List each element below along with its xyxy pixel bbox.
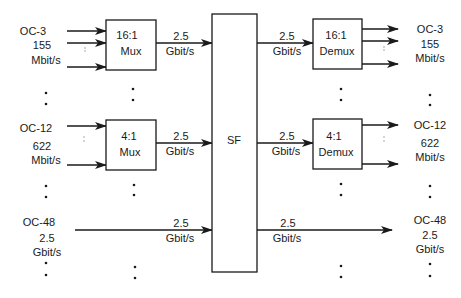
- link-unit: Gbit/s: [166, 232, 195, 244]
- label-line: Mbit/s: [31, 154, 61, 166]
- mux-16-1-box: 16:1 Mux: [106, 20, 156, 70]
- demux-16-1-box: 16:1 Demux: [313, 19, 362, 69]
- label-line: Mbit/s: [415, 52, 445, 64]
- link-sf-to-demux16: 2.5 Gbit/s: [257, 30, 313, 57]
- left-label-oc3: OC-3 155 Mbit/s: [20, 25, 61, 66]
- label-line: 2.5: [422, 229, 437, 241]
- mux4-input-arrows: [67, 126, 106, 165]
- label-line: OC-12: [414, 119, 446, 131]
- link-sf-to-demux4: 2.5 Gbit/s: [257, 130, 313, 157]
- link-unit: Gbit/s: [166, 145, 195, 157]
- mux-ratio: 4:1: [121, 130, 136, 142]
- link-mux4-to-sf: 2.5 Gbit/s: [156, 130, 212, 157]
- sonet-switch-diagram: OC-3 155 Mbit/s OC-12 622 Mbit/s OC-48 2…: [0, 0, 461, 298]
- link-rate: 2.5: [279, 130, 294, 142]
- link-unit: Gbit/s: [273, 45, 302, 57]
- link-oc48-to-sf: 2.5 Gbit/s: [75, 217, 212, 244]
- label-line: 155: [421, 38, 439, 50]
- right-label-oc12: OC-12 622 Mbit/s: [414, 119, 446, 163]
- label-line: OC-3: [20, 25, 46, 37]
- link-mux16-to-sf: 2.5 Gbit/s: [156, 30, 212, 57]
- label-line: Mbit/s: [415, 151, 445, 163]
- link-rate: 2.5: [279, 30, 294, 42]
- mux-type: Mux: [120, 146, 141, 158]
- demux16-output-arrows: [362, 29, 398, 64]
- label-line: 622: [33, 140, 51, 152]
- demux-ellipsis: [340, 88, 343, 279]
- link-rate: 2.5: [173, 217, 188, 229]
- label-line: Gbit/s: [33, 246, 62, 258]
- mux-type: Mux: [121, 45, 142, 57]
- demux-type: Demux: [319, 146, 354, 158]
- label-line: OC-12: [20, 122, 52, 134]
- switch-fabric-label: SF: [227, 134, 241, 146]
- label-line: 622: [421, 137, 439, 149]
- link-unit: Gbit/s: [273, 232, 302, 244]
- label-line: 2.5: [39, 232, 54, 244]
- demux4-output-arrows: [362, 125, 398, 164]
- demux-4-1-box: 4:1 Demux: [313, 119, 362, 169]
- mux-4-1-box: 4:1 Mux: [106, 120, 156, 170]
- mux16-input-arrows: [67, 31, 106, 67]
- mux-ratio: 16:1: [116, 29, 137, 41]
- label-line: OC-3: [417, 23, 443, 35]
- link-rate: 2.5: [173, 130, 188, 142]
- left-label-oc48: OC-48 2.5 Gbit/s: [23, 216, 62, 258]
- demux-ratio: 4:1: [326, 130, 341, 142]
- link-sf-to-oc48: 2.5 Gbit/s: [257, 217, 392, 244]
- label-line: OC-48: [23, 216, 55, 228]
- mux-ellipsis: [132, 88, 137, 280]
- demux-type: Demux: [320, 45, 355, 57]
- label-line: OC-48: [414, 214, 446, 226]
- label-line: Gbit/s: [416, 243, 445, 255]
- right-label-oc48: OC-48 2.5 Gbit/s: [414, 214, 446, 255]
- link-rate: 2.5: [280, 217, 295, 229]
- switch-fabric-box: SF: [212, 14, 257, 272]
- link-rate: 2.5: [173, 30, 188, 42]
- left-label-oc12: OC-12 622 Mbit/s: [20, 122, 61, 166]
- demux-ratio: 16:1: [325, 29, 346, 41]
- link-unit: Gbit/s: [272, 145, 301, 157]
- right-label-oc3: OC-3 155 Mbit/s: [415, 23, 445, 64]
- label-line: Mbit/s: [31, 54, 61, 66]
- label-line: 155: [33, 39, 51, 51]
- link-unit: Gbit/s: [166, 45, 195, 57]
